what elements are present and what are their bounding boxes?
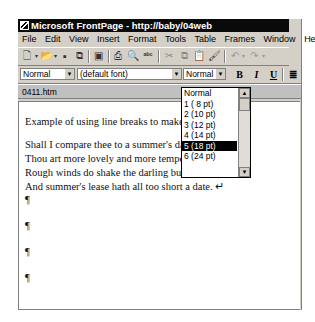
- menu-table[interactable]: Table: [195, 34, 217, 44]
- cut-icon[interactable]: ✂: [163, 50, 175, 62]
- menu-bar: File Edit View Insert Format Tools Table…: [18, 32, 301, 46]
- undo-dropdown-chevron-icon[interactable]: ▾: [240, 50, 246, 62]
- align-left-icon[interactable]: ≣: [286, 68, 299, 81]
- toolbar-separator: [88, 50, 90, 63]
- dropdown-scrollbar[interactable]: ▲ ▼: [238, 88, 250, 177]
- font-size-combo[interactable]: Normal ▼: [183, 68, 226, 80]
- editor-line: Shall I compare thee to a summer's day? …: [25, 138, 206, 150]
- italic-button[interactable]: I: [250, 68, 263, 81]
- underline-button[interactable]: U: [267, 68, 280, 81]
- editor-line: And summer's lease hath all too short a …: [25, 180, 224, 192]
- copy-icon[interactable]: ⧉: [178, 50, 190, 62]
- font-size-option[interactable]: 1 ( 8 pt): [182, 99, 237, 110]
- new-page-icon[interactable]: 🗋: [21, 50, 33, 62]
- toolbar-separator: [224, 50, 226, 63]
- menu-file[interactable]: File: [22, 34, 37, 44]
- font-chevron-down-icon[interactable]: ▼: [171, 69, 181, 79]
- menu-frames[interactable]: Frames: [225, 34, 256, 44]
- toolbar-separator: [282, 68, 284, 81]
- font-size-option[interactable]: 3 (12 pt): [182, 120, 237, 131]
- menu-format[interactable]: Format: [128, 34, 157, 44]
- font-size-option-selected[interactable]: 5 (18 pt): [182, 141, 237, 152]
- menu-help[interactable]: Help: [304, 34, 315, 44]
- style-combo[interactable]: Normal ▼: [20, 68, 75, 80]
- paste-icon[interactable]: 📋: [193, 50, 205, 62]
- font-size-chevron-down-icon[interactable]: ▼: [215, 69, 225, 79]
- redo-dropdown-chevron-icon[interactable]: ▾: [260, 50, 266, 62]
- paragraph-mark: ¶: [25, 272, 30, 283]
- font-size-option[interactable]: 6 (24 pt): [182, 151, 237, 162]
- window-title: Microsoft FrontPage - http://baby/04web: [31, 20, 212, 31]
- new-dropdown-chevron-icon[interactable]: ▾: [33, 50, 39, 62]
- menu-view[interactable]: View: [69, 34, 88, 44]
- formatting-toolbar: Normal ▼ (default font) ▼ Normal ▼ B I U…: [18, 66, 301, 84]
- scroll-up-arrow-icon[interactable]: ▲: [239, 88, 250, 98]
- scroll-down-arrow-icon[interactable]: ▼: [239, 167, 250, 177]
- menu-edit[interactable]: Edit: [45, 34, 61, 44]
- menu-window[interactable]: Window: [264, 34, 296, 44]
- paragraph-mark: ¶: [25, 246, 30, 257]
- frontpage-window: Microsoft FrontPage - http://baby/04web …: [18, 19, 302, 310]
- open-dropdown-chevron-icon[interactable]: ▾: [52, 50, 58, 62]
- font-size-dropdown-list: Normal 1 ( 8 pt) 2 (10 pt) 3 (12 pt) 4 (…: [181, 87, 251, 178]
- scrollbar-thumb[interactable]: [239, 98, 250, 111]
- standard-toolbar: 🗋 ▾ 📂 ▾ ▪ ⧉ ▣ ⎙ 🔍 ᵃᵇᶜ ✂ ⧉ 📋 🖌 ↶ ▾ ↷ ▾: [18, 47, 289, 66]
- font-size-value: Normal: [186, 69, 213, 79]
- spelling-icon[interactable]: ᵃᵇᶜ: [142, 50, 154, 62]
- open-folder-icon[interactable]: 📂: [40, 50, 52, 62]
- document-tab-bar: 0411.htm: [18, 84, 301, 99]
- bold-button[interactable]: B: [233, 68, 246, 81]
- document-tab[interactable]: 0411.htm: [22, 87, 57, 97]
- frontpage-app-icon: [20, 21, 29, 30]
- menu-insert[interactable]: Insert: [97, 34, 120, 44]
- style-chevron-down-icon[interactable]: ▼: [64, 69, 74, 79]
- page-editor[interactable]: Example of using line breaks to make a b…: [18, 101, 300, 310]
- save-icon[interactable]: ▪: [59, 50, 71, 62]
- font-combo[interactable]: (default font) ▼: [77, 68, 182, 80]
- paragraph-mark: ¶: [25, 194, 30, 205]
- font-size-option[interactable]: 2 (10 pt): [182, 109, 237, 120]
- toolbar-separator: [158, 50, 160, 63]
- title-bar: Microsoft FrontPage - http://baby/04web: [18, 19, 289, 32]
- paragraph-mark: ¶: [25, 220, 30, 231]
- print-preview-icon[interactable]: 🔍: [127, 50, 139, 62]
- toolbar-separator: [108, 50, 110, 63]
- font-value: (default font): [80, 69, 128, 79]
- redo-icon[interactable]: ↷: [248, 50, 260, 62]
- style-value: Normal: [23, 69, 50, 79]
- font-size-option[interactable]: Normal: [182, 88, 237, 99]
- publish-icon[interactable]: ⧉: [73, 50, 85, 62]
- menu-tools[interactable]: Tools: [165, 34, 186, 44]
- font-size-option[interactable]: 4 (14 pt): [182, 130, 237, 141]
- folder-list-icon[interactable]: ▣: [92, 50, 104, 62]
- print-icon[interactable]: ⎙: [112, 50, 124, 62]
- format-painter-icon[interactable]: 🖌: [208, 50, 220, 62]
